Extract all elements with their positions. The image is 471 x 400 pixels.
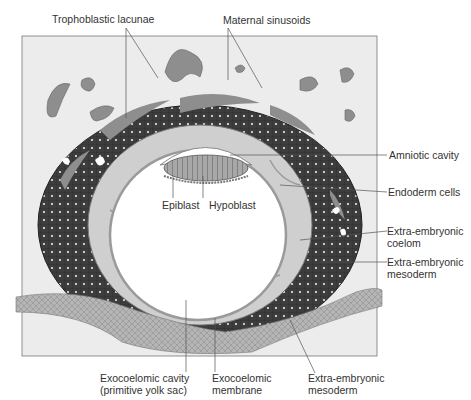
label-line-2: (primitive yolk sac) [100,384,189,396]
label-extra-embryonic-mesoderm-bottom: Extra-embryonic mesoderm [308,372,384,396]
label-maternal-sinusoids: Maternal sinusoids [223,14,311,26]
label-line-2: membrane [212,384,272,396]
label-line-1: Extra-embryonic [308,372,384,384]
label-line-2: mesoderm [308,384,384,396]
label-line-1: Extra-embryonic [387,225,463,237]
label-line-2: coelom [387,237,463,249]
label-trophoblastic-lacunae: Trophoblastic lacunae [52,13,154,25]
label-extra-embryonic-coelom: Extra-embryonic coelom [387,225,463,249]
label-endoderm-cells: Endoderm cells [388,186,460,198]
label-extra-embryonic-mesoderm-right: Extra-embryonic mesoderm [387,256,463,280]
label-hypoblast: Hypoblast [209,199,256,211]
label-line-1: Exocoelomic cavity [100,372,189,384]
label-line-1: Extra-embryonic [387,256,463,268]
label-amniotic-cavity: Amniotic cavity [389,149,459,161]
label-line-2: mesoderm [387,268,463,280]
label-epiblast: Epiblast [162,199,199,211]
label-line-1: Exocoelomic [212,372,272,384]
label-exocoelomic-cavity: Exocoelomic cavity (primitive yolk sac) [100,372,189,396]
label-exocoelomic-membrane: Exocoelomic membrane [212,372,272,396]
